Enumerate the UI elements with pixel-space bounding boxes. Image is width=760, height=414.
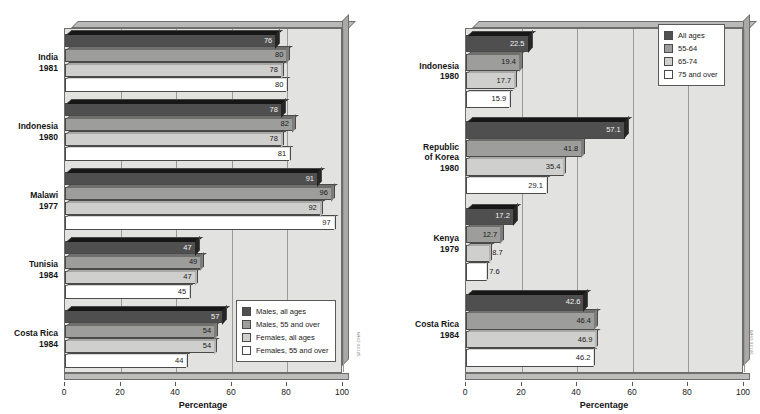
x-axis-tick xyxy=(175,382,176,386)
bar-top-face xyxy=(66,146,294,148)
source-credit-left: WHO 92145 xyxy=(356,332,361,357)
bar-side-face xyxy=(509,89,511,109)
x-axis-tick-label: 80 xyxy=(682,387,691,397)
category-label-line: 1980 xyxy=(394,163,459,174)
legend-swatch-icon xyxy=(242,346,251,355)
bar-side-face xyxy=(563,156,566,177)
category-label-line: India xyxy=(2,52,58,63)
gridline xyxy=(633,29,634,372)
category-label-line: 1984 xyxy=(394,330,459,341)
bar-top-face xyxy=(66,30,283,35)
legend-item: 75 and over xyxy=(664,68,718,81)
bar-top-face xyxy=(66,99,289,104)
category-label-line: 1984 xyxy=(2,339,58,350)
bar-side-face xyxy=(186,353,188,369)
x-axis-tick-label: 80 xyxy=(281,387,290,397)
bar-value-label: 57.1 xyxy=(606,126,621,134)
legend-swatch-icon xyxy=(242,333,251,342)
bar-value-label: 96 xyxy=(320,189,328,197)
figure-two-bar-charts: India1981Indonesia1980Malawi1977Tunisia1… xyxy=(0,0,760,414)
x-axis-tick-label: 20 xyxy=(115,387,124,397)
legend-right: All ages55-6465-7475 and over xyxy=(658,24,725,86)
bar: 19.4 xyxy=(466,54,520,71)
legend-swatch-icon xyxy=(664,57,673,66)
bar-side-face xyxy=(546,176,548,196)
bar-value-label: 41.8 xyxy=(564,145,579,153)
bar: 44 xyxy=(65,354,187,368)
bar: 35.4 xyxy=(466,158,564,175)
bar-value-label: 91 xyxy=(306,175,314,183)
bar-side-face xyxy=(195,268,198,285)
legend-label: Males, 55 and over xyxy=(256,320,320,329)
bar: 80 xyxy=(65,49,287,63)
legend-swatch-icon xyxy=(242,307,251,316)
bar: 47 xyxy=(65,271,196,285)
category-label-line: Costa Rica xyxy=(2,328,58,339)
chart-panel-right: Indonesia1980Republicof Korea1980Kenya19… xyxy=(380,0,760,414)
bar-value-label: 47 xyxy=(183,244,191,252)
x-axis-tick-label: 40 xyxy=(170,387,179,397)
bar-top-face xyxy=(467,176,550,178)
bar-value-label: 49 xyxy=(189,258,197,266)
legend-label: 75 and over xyxy=(678,70,718,79)
source-credit-right: WHO 92146 xyxy=(749,330,754,355)
legend-label: All ages xyxy=(678,31,705,40)
category-label-line: Republic xyxy=(394,142,459,153)
bar-top-face xyxy=(467,90,514,92)
bar-value-label: 12.7 xyxy=(483,231,498,239)
category-label-line: 1977 xyxy=(2,201,58,212)
bar-value-label: 54 xyxy=(203,327,211,335)
legend-swatch-icon xyxy=(664,44,673,53)
bar-top-face xyxy=(66,306,230,311)
bar-side-face xyxy=(581,136,585,158)
legend-item: Males, 55 and over xyxy=(242,318,329,331)
bar-side-face xyxy=(189,284,191,300)
bar-side-face xyxy=(200,252,204,270)
category-label: Costa Rica1984 xyxy=(2,328,58,349)
bar-value-label: 45 xyxy=(178,288,186,296)
x-axis-tick xyxy=(465,382,466,386)
category-axis-labels-left: India1981Indonesia1980Malawi1977Tunisia1… xyxy=(2,28,58,373)
x-axis-tick-label: 40 xyxy=(571,387,580,397)
bar-value-label: 97 xyxy=(322,219,330,227)
legend-label: Males, all ages xyxy=(256,307,306,316)
legend-item: 55-64 xyxy=(664,42,718,55)
x-axis-left: 020406080100 xyxy=(64,382,342,398)
bar-top-face xyxy=(467,117,632,122)
bar-value-label: 35.4 xyxy=(546,163,561,171)
bar-side-face xyxy=(331,183,335,201)
bar-value-label: 47 xyxy=(183,273,191,281)
x-axis-tick-label: 100 xyxy=(335,387,349,397)
bar: 78 xyxy=(65,64,282,78)
bar-top-face xyxy=(66,237,203,242)
bar: 22.5 xyxy=(466,35,529,52)
bar-value-label: 80 xyxy=(275,51,283,59)
bar-value-label: 76 xyxy=(264,37,272,45)
bar-side-face xyxy=(289,146,291,162)
gridline xyxy=(343,29,344,372)
gridline xyxy=(744,29,745,372)
category-label: Costa Rica1984 xyxy=(394,319,459,340)
bar-side-face xyxy=(486,262,488,282)
bar-value-label: 78 xyxy=(269,106,277,114)
bar-value-label: 82 xyxy=(281,120,289,128)
legend-item: Males, all ages xyxy=(242,305,329,318)
bar: 47 xyxy=(65,241,196,255)
bar-value-label: 22.5 xyxy=(510,40,525,48)
x-axis-tick-label: 20 xyxy=(516,387,525,397)
bar-top-face xyxy=(66,215,338,217)
bar-side-face xyxy=(292,114,296,132)
bar-value-label: 8.7 xyxy=(492,249,502,257)
bar-top-face xyxy=(467,348,598,350)
bar-value-label: 29.1 xyxy=(528,182,543,190)
bar: 17.7 xyxy=(466,72,515,89)
x-axis-tick xyxy=(632,382,633,386)
bar-top-face xyxy=(66,284,193,286)
category-label-line: 1981 xyxy=(2,63,58,74)
bar: 97 xyxy=(65,216,335,230)
category-axis-labels-right: Indonesia1980Republicof Korea1980Kenya19… xyxy=(394,28,459,373)
bar-value-label: 46.9 xyxy=(578,336,593,344)
x-axis-tick xyxy=(576,382,577,386)
bar-side-face xyxy=(286,45,290,63)
legend-left: Males, all agesMales, 55 and overFemales… xyxy=(236,300,336,362)
